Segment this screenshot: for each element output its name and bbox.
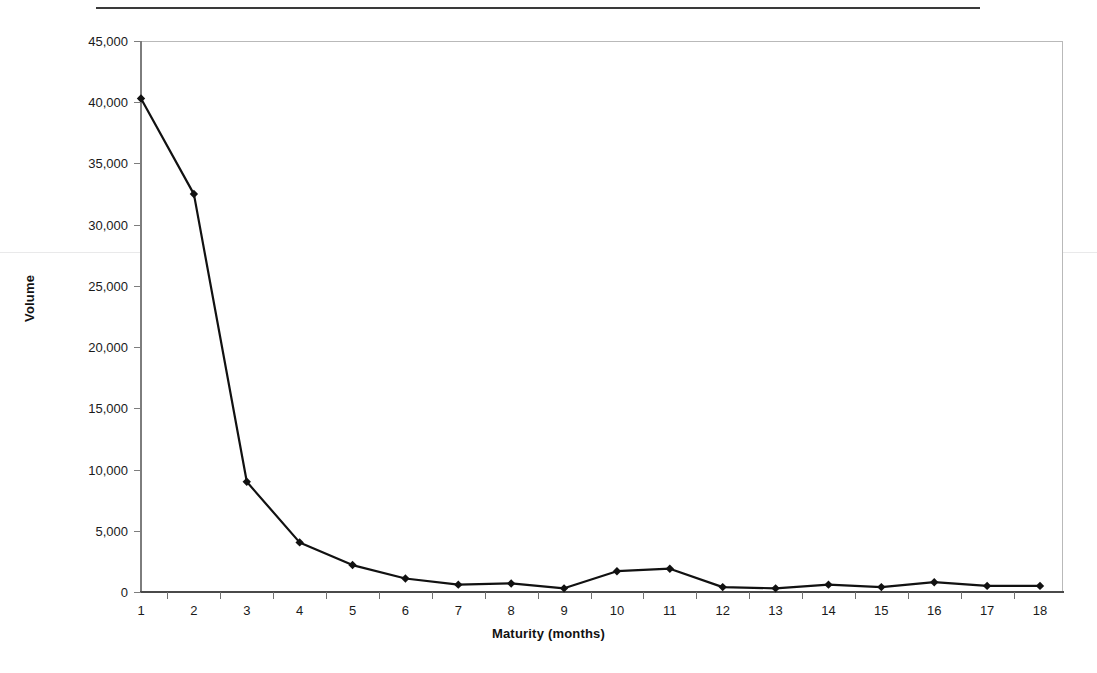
x-axis-tick [220, 592, 221, 599]
y-axis-tick [134, 592, 141, 593]
y-axis-tick [134, 163, 141, 164]
y-axis-tick [134, 225, 141, 226]
data-point-marker [771, 584, 779, 592]
x-axis-tick-label: 16 [927, 604, 941, 617]
y-axis-tick [134, 408, 141, 409]
y-axis-tick [134, 102, 141, 103]
x-axis-tick-label: 8 [508, 604, 515, 617]
x-axis-tick-label: 3 [243, 604, 250, 617]
data-point-marker [1036, 582, 1044, 590]
data-point-marker [930, 578, 938, 586]
x-axis-tick-label: 17 [980, 604, 994, 617]
data-point-marker [401, 574, 409, 582]
x-axis-tick [908, 592, 909, 599]
x-axis-tick-label: 14 [821, 604, 835, 617]
x-axis-tick-label: 18 [1033, 604, 1047, 617]
x-axis-tick [273, 592, 274, 599]
x-axis-tick [485, 592, 486, 599]
x-axis-tick [379, 592, 380, 599]
data-point-marker [190, 190, 198, 198]
x-axis-tick-label: 2 [190, 604, 197, 617]
x-axis-tick-label: 9 [560, 604, 567, 617]
x-axis-tick [538, 592, 539, 599]
x-axis-tick-label: 11 [663, 604, 677, 617]
x-axis-tick [432, 592, 433, 599]
data-point-marker [824, 580, 832, 588]
x-axis-tick-label: 6 [402, 604, 409, 617]
y-axis-tick [134, 286, 141, 287]
x-axis-tick-label: 10 [610, 604, 624, 617]
series-layer [0, 0, 1097, 673]
data-point-marker [666, 565, 674, 573]
x-axis-tick-label: 15 [874, 604, 888, 617]
x-axis-tick-label: 7 [455, 604, 462, 617]
x-axis-tick-label: 13 [768, 604, 782, 617]
x-axis-tick [696, 592, 697, 599]
data-point-marker [560, 584, 568, 592]
data-point-marker [719, 583, 727, 591]
page: 05,00010,00015,00020,00025,00030,00035,0… [0, 0, 1097, 673]
x-axis-tick [591, 592, 592, 599]
x-axis-tick-label: 1 [137, 604, 144, 617]
x-axis-tick [326, 592, 327, 599]
x-axis-tick [643, 592, 644, 599]
y-axis-tick [134, 470, 141, 471]
x-axis-tick [855, 592, 856, 599]
x-axis-tick-label: 12 [715, 604, 729, 617]
data-point-marker [507, 579, 515, 587]
data-point-marker [348, 561, 356, 569]
data-point-marker [454, 580, 462, 588]
x-axis-tick [1014, 592, 1015, 599]
x-axis-tick [961, 592, 962, 599]
data-point-marker [983, 582, 991, 590]
volume-by-maturity-line-chart: 05,00010,00015,00020,00025,00030,00035,0… [0, 0, 1097, 673]
series-polyline [141, 99, 1040, 589]
y-axis-tick [134, 41, 141, 42]
data-point-marker [877, 583, 885, 591]
series-markers [137, 94, 1044, 592]
y-axis-tick [134, 531, 141, 532]
x-axis-tick [802, 592, 803, 599]
y-axis-tick [134, 347, 141, 348]
x-axis-tick [167, 592, 168, 599]
data-point-marker [613, 567, 621, 575]
x-axis-tick [749, 592, 750, 599]
x-axis-tick-label: 4 [296, 604, 303, 617]
x-axis-tick-label: 5 [349, 604, 356, 617]
